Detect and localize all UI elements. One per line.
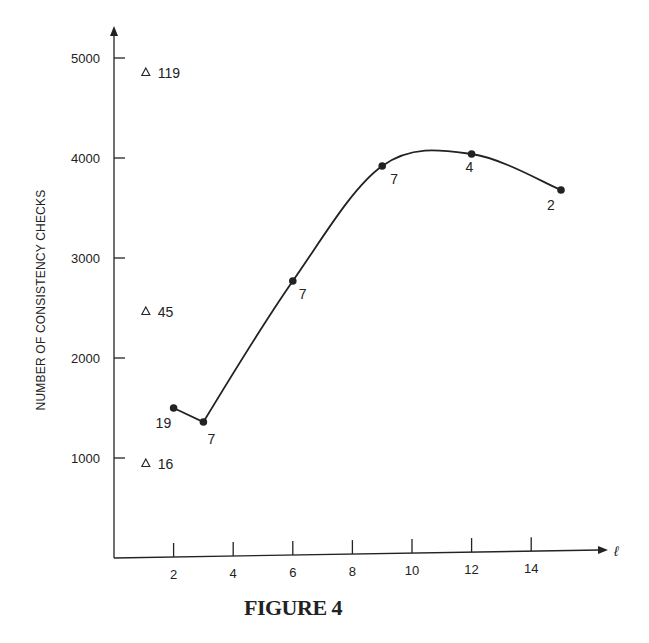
circle-markers: 1977742 [156, 150, 565, 447]
point-label: 7 [207, 431, 215, 447]
data-point [289, 277, 297, 285]
x-tick-label: 4 [230, 566, 237, 581]
triangle-marker-icon [142, 459, 150, 467]
data-point [200, 418, 208, 426]
x-tick-label: 10 [405, 563, 419, 578]
y-axis-arrow-icon [110, 26, 118, 36]
y-axis-label: NUMBER OF CONSISTENCY CHECKS [34, 190, 48, 411]
triangle-label: 45 [158, 304, 174, 320]
y-tick-label: 3000 [71, 251, 100, 266]
y-tick-label: 5000 [71, 51, 100, 66]
triangle-marker-icon [142, 307, 150, 315]
x-tick-label: 12 [464, 562, 478, 577]
triangle-label: 16 [158, 456, 174, 472]
point-label: 7 [390, 171, 398, 187]
x-tick-label: 14 [524, 561, 538, 576]
x-tick-label: 2 [170, 567, 177, 582]
point-label: 2 [547, 197, 555, 213]
line-chart: ℓ 10002000300040005000 2468101214 NUMBER… [0, 0, 649, 643]
x-axis-label: ℓ [613, 543, 619, 559]
y-tick-label: 2000 [71, 351, 100, 366]
point-label: 4 [466, 159, 474, 175]
data-point [378, 162, 386, 170]
triangle-marker-icon [142, 68, 150, 76]
x-axis-line [114, 550, 600, 558]
y-tick-label: 4000 [71, 151, 100, 166]
y-ticks: 10002000300040005000 [71, 51, 125, 466]
triangle-label: 119 [158, 65, 181, 81]
series-line [174, 150, 561, 422]
point-label: 7 [299, 286, 307, 302]
x-ticks: 2468101214 [170, 537, 538, 582]
data-point [557, 186, 565, 194]
point-label: 19 [156, 415, 172, 431]
x-axis-arrow-icon [598, 546, 608, 554]
y-tick-label: 1000 [71, 451, 100, 466]
x-tick-label: 8 [349, 564, 356, 579]
x-tick-label: 6 [289, 565, 296, 580]
data-point [170, 404, 178, 412]
figure-caption: FIGURE 4 [244, 595, 342, 621]
axes [114, 34, 600, 558]
data-point [468, 150, 476, 158]
